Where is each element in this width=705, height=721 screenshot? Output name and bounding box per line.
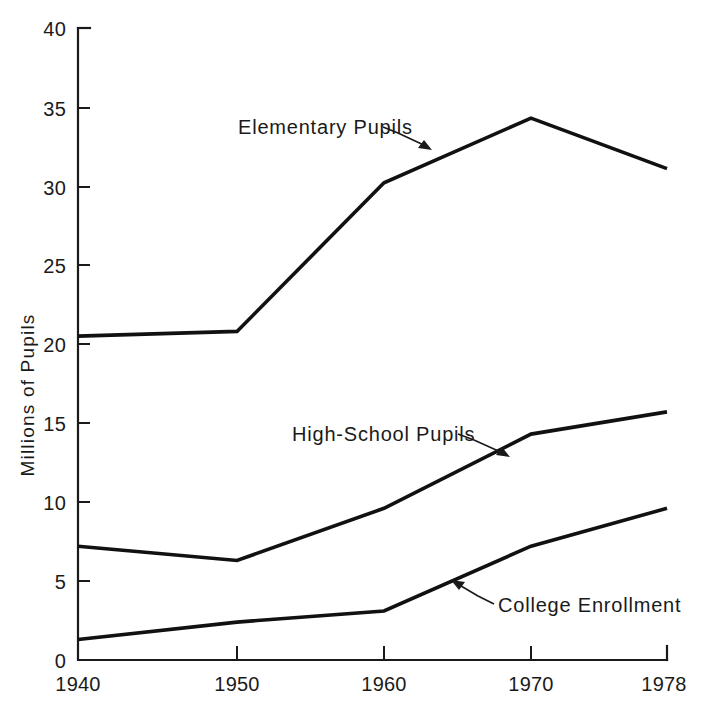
y-tick-marks [78, 108, 90, 581]
y-tick-label-5: 5 [55, 571, 66, 593]
leader-arrow-elementary [418, 140, 432, 150]
x-tick-label-1970: 1970 [508, 673, 553, 695]
x-tick-label-1978: 1978 [641, 673, 686, 695]
x-tick-label-1950: 1950 [214, 673, 259, 695]
series-label-elementary: Elementary Pupils [238, 116, 413, 138]
annotation-elementary: Elementary Pupils [238, 116, 432, 150]
y-tick-label-40: 40 [43, 18, 66, 40]
leader-arrow-college [451, 580, 465, 590]
x-tick-label-1940: 1940 [55, 673, 100, 695]
y-tick-label-20: 20 [43, 334, 66, 356]
y-tick-label-10: 10 [43, 492, 66, 514]
x-tick-marks [78, 646, 667, 660]
series-line-college [78, 508, 667, 639]
x-tick-label-1960: 1960 [361, 673, 406, 695]
line-chart-figure: 40 35 30 25 20 15 10 5 0 1940 1950 1960 … [0, 0, 705, 721]
y-tick-label-25: 25 [43, 255, 66, 277]
y-tick-label-30: 30 [43, 177, 66, 199]
annotation-college: College Enrollment [451, 580, 681, 616]
annotation-high-school: High-School Pupils [292, 423, 510, 457]
cropped-title-band [0, 0, 705, 7]
y-tick-label-35: 35 [43, 98, 66, 120]
y-axis-title: Millions of Pupils [17, 313, 38, 476]
series-line-elementary [78, 118, 667, 336]
series-label-high-school: High-School Pupils [292, 423, 475, 445]
y-tick-label-15: 15 [43, 413, 66, 435]
chart-canvas: 40 35 30 25 20 15 10 5 0 1940 1950 1960 … [0, 0, 705, 721]
y-tick-label-0: 0 [55, 650, 66, 672]
series-label-college: College Enrollment [498, 594, 681, 616]
